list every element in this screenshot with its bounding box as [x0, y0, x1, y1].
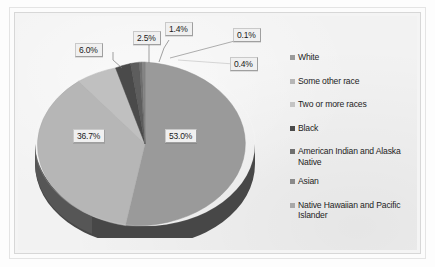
legend-swatch-icon-black — [290, 126, 295, 131]
legend-swatch-icon-asian — [290, 179, 295, 184]
pie-label-american-indian: 1.4% — [165, 22, 193, 36]
legend-item-some-other-race[interactable]: Some other race — [290, 76, 415, 87]
legend-label-native-hawaiian: Native Hawaiian and Pacific Islander — [298, 200, 415, 221]
legend-item-black[interactable]: Black — [290, 123, 415, 134]
legend-item-asian[interactable]: Asian — [290, 176, 415, 187]
pie-label-white: 53.0% — [165, 129, 197, 143]
pie-label-black: 2.5% — [133, 31, 161, 45]
chart-legend: White Some other race Two or more races … — [290, 52, 415, 234]
legend-swatch-icon-some-other-race — [290, 79, 295, 84]
legend-label-asian: Asian — [298, 176, 319, 187]
legend-label-some-other-race: Some other race — [298, 76, 359, 87]
pie-chart — [32, 52, 264, 238]
legend-swatch-icon-two-or-more-races — [290, 102, 295, 107]
pie-chart-svg — [32, 52, 264, 238]
chart-plot-area: 6.0% 2.5% 1.4% 0.1% 0.4% 36.7% 53.0% Whi… — [18, 16, 417, 250]
pie-label-two-or-more-races: 6.0% — [75, 43, 103, 57]
legend-swatch-icon-american-indian — [290, 149, 295, 154]
legend-swatch-icon-white — [290, 55, 295, 60]
legend-item-native-hawaiian[interactable]: Native Hawaiian and Pacific Islander — [290, 200, 415, 221]
chart-screenshot: 6.0% 2.5% 1.4% 0.1% 0.4% 36.7% 53.0% Whi… — [0, 0, 435, 267]
legend-label-white: White — [298, 52, 319, 63]
legend-label-american-indian: American Indian and Alaska Native — [298, 146, 415, 167]
pie-label-some-other-race: 36.7% — [73, 129, 105, 143]
legend-item-two-or-more-races[interactable]: Two or more races — [290, 99, 415, 110]
legend-item-white[interactable]: White — [290, 52, 415, 63]
legend-label-two-or-more-races: Two or more races — [298, 99, 367, 110]
legend-item-american-indian[interactable]: American Indian and Alaska Native — [290, 146, 415, 167]
legend-label-black: Black — [298, 123, 318, 134]
pie-label-native-hawaiian: 0.1% — [233, 28, 261, 42]
legend-swatch-icon-native-hawaiian — [290, 203, 295, 208]
pie-label-asian: 0.4% — [230, 57, 258, 71]
